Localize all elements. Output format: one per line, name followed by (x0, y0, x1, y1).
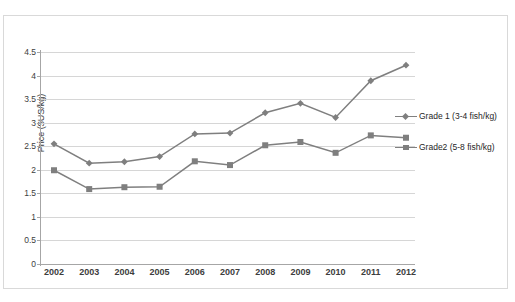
legend-item-grade2[interactable]: Grade2 (5-8 fish/kg) (395, 143, 495, 152)
legend-marker-diamond-icon (395, 112, 417, 121)
gridline (40, 52, 415, 53)
gridline (40, 193, 415, 194)
y-axis-tick-label: 3.5 (6, 95, 36, 104)
gridline (40, 170, 415, 171)
y-axis-tick (37, 52, 41, 53)
x-axis-tick-label: 2004 (104, 268, 144, 277)
x-axis-tick-label: 2007 (210, 268, 250, 277)
y-axis-tick (37, 76, 41, 77)
gridline (40, 240, 415, 241)
x-axis-tick-label: 2003 (69, 268, 109, 277)
y-axis-line (40, 50, 41, 266)
legend-label-grade1: Grade 1 (3-4 fish/kg) (419, 112, 497, 121)
figure-frame (3, 15, 508, 289)
x-axis-tick-label: 2008 (245, 268, 285, 277)
gridline (40, 146, 415, 147)
y-axis-tick (37, 170, 41, 171)
x-axis-line (40, 264, 415, 265)
gridline (40, 76, 415, 77)
x-axis-tick-label: 2011 (351, 268, 391, 277)
y-axis-tick-labels: 00.511.522.533.544.5 (2, 0, 36, 302)
gridline (40, 99, 415, 100)
x-axis-tick-label: 2005 (140, 268, 180, 277)
x-axis-tick-label: 2010 (316, 268, 356, 277)
y-axis-tick-label: 2.5 (6, 142, 36, 151)
gridline (40, 123, 415, 124)
legend-marker-square-icon (395, 143, 417, 152)
y-axis-tick (37, 146, 41, 147)
chart-screenshot: Price ($US/kg) 00.511.522.533.544.5 2002… (0, 0, 515, 302)
legend-label-grade2: Grade2 (5-8 fish/kg) (419, 143, 495, 152)
x-axis-tick-label: 2002 (34, 268, 74, 277)
y-axis-tick-label: 4.5 (6, 48, 36, 57)
y-axis-tick-label: 2 (6, 166, 36, 175)
x-axis-tick-label: 2009 (280, 268, 320, 277)
legend-item-grade1[interactable]: Grade 1 (3-4 fish/kg) (395, 112, 497, 121)
y-axis-tick-label: 0.5 (6, 236, 36, 245)
gridline (40, 217, 415, 218)
y-axis-tick-label: 3 (6, 118, 36, 127)
y-axis-tick-label: 1.5 (6, 189, 36, 198)
y-axis-tick (37, 99, 41, 100)
y-axis-tick-label: 1 (6, 213, 36, 222)
y-axis-tick (37, 193, 41, 194)
y-axis-tick-label: 4 (6, 71, 36, 80)
y-axis-tick (37, 240, 41, 241)
y-axis-tick-label: 0 (6, 260, 36, 269)
y-axis-tick (37, 217, 41, 218)
x-axis-tick-label: 2006 (175, 268, 215, 277)
x-axis-tick-label: 2012 (386, 268, 426, 277)
y-axis-tick (37, 123, 41, 124)
y-axis-tick (37, 264, 41, 265)
